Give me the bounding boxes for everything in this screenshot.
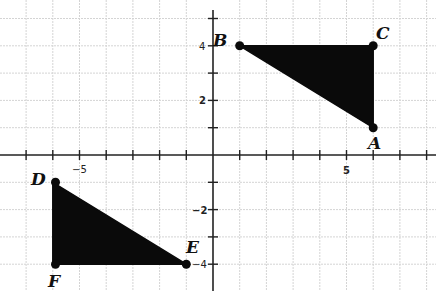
triangle-abc xyxy=(240,46,374,128)
point-b xyxy=(235,41,244,50)
point-d xyxy=(51,178,60,187)
y-tick-label-neg4: −4 xyxy=(192,259,207,270)
label-a: A xyxy=(366,133,381,153)
y-tick-label-2: 2 xyxy=(199,95,206,106)
x-tick-label-5: 5 xyxy=(343,165,350,176)
x-tick-label-neg5: −5 xyxy=(72,164,87,175)
point-e xyxy=(182,260,191,269)
label-e: E xyxy=(185,237,200,257)
label-c: C xyxy=(376,23,390,43)
y-tick-label-neg2: −2 xyxy=(192,205,207,216)
label-f: F xyxy=(47,271,62,291)
coordinate-plane: −5 5 4 2 −2 −4 A B C D E F xyxy=(0,0,436,291)
label-d: D xyxy=(30,169,46,189)
label-b: B xyxy=(212,30,227,50)
y-tick-label-4: 4 xyxy=(199,41,205,52)
point-f xyxy=(51,260,60,269)
triangle-def xyxy=(53,182,187,264)
point-a xyxy=(369,123,378,132)
